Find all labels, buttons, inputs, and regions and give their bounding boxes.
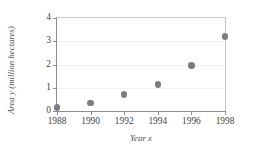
data-point [121, 91, 128, 98]
data-point [188, 62, 195, 69]
x-tick-mark [225, 111, 226, 115]
y-tick-mark [53, 41, 57, 42]
x-tick-mark [158, 111, 159, 115]
data-point [222, 33, 229, 40]
y-tick-label: 1 [46, 83, 51, 92]
x-axis-title: Year x [55, 133, 227, 143]
x-tick-label: 1990 [81, 117, 100, 126]
x-tick-label: 1992 [115, 117, 134, 126]
y-tick-label: 4 [46, 13, 51, 22]
gridline [57, 41, 225, 42]
y-axis-title: Area y (million hectares) [6, 10, 20, 130]
x-tick-mark [91, 111, 92, 115]
x-tick-mark [191, 111, 192, 115]
x-tick-mark [124, 111, 125, 115]
x-tick-label: 1988 [48, 117, 67, 126]
x-tick-label: 1996 [182, 117, 201, 126]
x-tick-mark [57, 111, 58, 115]
data-point [155, 81, 162, 88]
x-tick-label: 1994 [148, 117, 167, 126]
gridline [57, 65, 225, 66]
scatter-plot-figure: Area y (million hectares) Year x 01234 1… [0, 0, 257, 155]
y-tick-mark [53, 65, 57, 66]
y-tick-label: 3 [46, 37, 51, 46]
y-tick-label: 2 [46, 60, 51, 69]
y-tick-mark [53, 88, 57, 89]
data-point [54, 104, 61, 111]
data-point [87, 100, 94, 107]
y-tick-mark [53, 18, 57, 19]
plot-area: 01234 198819901992199419961998 [56, 17, 226, 112]
gridline [57, 88, 225, 89]
x-tick-label: 1998 [216, 117, 235, 126]
y-tick-label: 0 [46, 106, 51, 115]
